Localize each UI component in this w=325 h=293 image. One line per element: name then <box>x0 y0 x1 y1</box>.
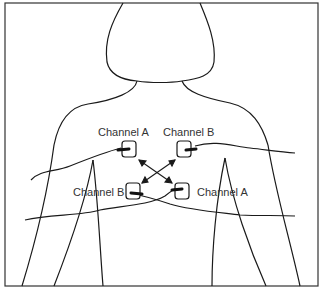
label-bottom-right: Channel A <box>197 186 248 198</box>
right-arm-inner <box>225 158 266 286</box>
label-top-right: Channel B <box>163 126 214 138</box>
body-outline <box>22 3 300 286</box>
electrode-bottom-left <box>126 183 140 199</box>
right-torso <box>212 158 225 286</box>
head-outline <box>106 3 214 83</box>
upper-right-wire <box>195 143 295 153</box>
left-arm-outer <box>22 145 54 286</box>
electrode-bottom-right <box>175 183 189 199</box>
label-top-left: Channel A <box>98 126 149 138</box>
upper-left-wire <box>31 148 121 180</box>
left-torso <box>93 160 103 286</box>
label-bottom-left: Channel B <box>73 186 124 198</box>
figure-frame <box>5 3 318 286</box>
electrode-diagram: Channel A Channel B Channel B Channel A <box>0 0 325 293</box>
left-arm-inner <box>54 160 93 286</box>
cross-arrows <box>139 160 175 183</box>
